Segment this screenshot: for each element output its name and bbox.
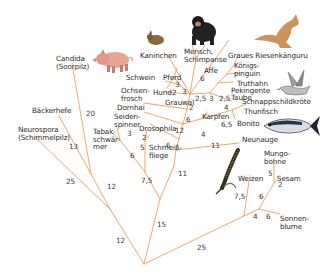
wheat-ear-icon	[214, 148, 244, 196]
branch-length: 25	[197, 244, 206, 252]
pig-icon	[92, 48, 136, 74]
branch-length: 11	[211, 142, 220, 150]
branch-length: 2	[189, 104, 194, 112]
branch-length: 12	[107, 183, 116, 191]
taxon-baeckerhefe: Bäckerhefe	[32, 107, 71, 115]
taxon-mungobohne: Mungo- bohne	[264, 150, 290, 165]
taxon-tabakschwaermer: Tabak- schwär- mer	[93, 128, 120, 151]
taxon-bonito: Bonito	[237, 120, 260, 128]
branch-length: 13	[69, 143, 78, 151]
phylogenetic-tree-diagram: Candida (Soorpilz) Bäckerhefe Neurospora…	[0, 0, 329, 276]
chimpanzee-icon	[186, 14, 220, 46]
branch-length: 6	[259, 193, 264, 201]
taxon-neunauge: Neunauge	[242, 136, 278, 144]
taxon-candida: Candida (Soorpilz)	[56, 55, 89, 70]
branch-length: 4	[224, 104, 229, 112]
taxon-ochsenfrosch: Ochsen- frosch	[121, 87, 150, 102]
branch-length: 6	[166, 142, 171, 150]
taxon-schwein: Schwein	[126, 74, 155, 82]
taxon-kaninchen: Kaninchen	[140, 52, 177, 60]
rabbit-icon	[146, 30, 166, 46]
taxon-sonnenblume: Sonnen- blume	[280, 215, 309, 230]
branch-length: 7,5	[141, 177, 152, 185]
branch-length: 6	[200, 75, 205, 83]
taxon-weizen: Weizen	[238, 175, 263, 183]
taxon-koenigspinguin: Königs- pinguin	[234, 62, 260, 77]
branch-length: 20	[86, 110, 95, 118]
branch-length: 3	[127, 130, 132, 138]
taxon-thunfisch: Thunfisch	[244, 108, 278, 116]
taxon-drosophila: Drosophila	[139, 125, 176, 133]
branch-length: 15	[157, 221, 166, 229]
branch-length: 5	[268, 170, 273, 178]
goose-icon	[276, 68, 312, 98]
branch-length: 3	[182, 88, 187, 96]
taxon-hund: Hund	[153, 89, 172, 97]
branch-length: 6	[266, 213, 271, 221]
branch-length: 4	[201, 131, 206, 139]
taxon-affe: Affe	[204, 67, 218, 75]
branch-length: 2	[142, 134, 147, 142]
taxon-mensch-schimpanse: Mensch, Schimpanse	[184, 48, 227, 63]
branch-length: 2,5	[219, 95, 230, 103]
branch-length: 11	[178, 170, 187, 178]
branch-length: 7,5	[234, 193, 245, 201]
taxon-seidenspinner: Seiden- spinner	[114, 113, 140, 128]
branch-length: 3	[209, 95, 214, 103]
branch-length: 2	[172, 89, 177, 97]
branch-length: 2	[278, 181, 283, 189]
taxon-dornhai: Dornhai	[117, 104, 145, 112]
branch-length: 25	[66, 178, 75, 186]
branch-length: 2,5	[195, 95, 206, 103]
taxon-schnappschildkroete: Schnappschildkröte	[242, 98, 311, 106]
branch-length: 5	[140, 144, 145, 152]
branch-length: 6	[186, 116, 191, 124]
branch-length: 6	[130, 152, 135, 160]
taxon-kaenguru: Graues Riesenkänguru	[228, 52, 308, 60]
kangaroo-icon	[252, 10, 304, 50]
branch-length: 12	[175, 127, 184, 135]
taxon-neurospora: Neurospora (Schimmelpilz)	[18, 126, 70, 141]
branch-length: 12	[116, 237, 125, 245]
branch-length: 4	[253, 213, 258, 221]
branch-length: 6,5	[221, 121, 232, 129]
